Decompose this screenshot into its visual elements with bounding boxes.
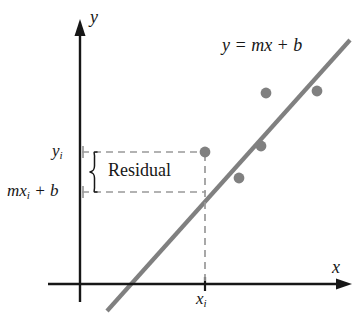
y-observed-label-base: y	[52, 141, 60, 160]
x-axis-label: x	[332, 258, 340, 276]
residual-diagram: y x y = mx + b yi mxi + b xi Residual	[0, 0, 355, 316]
fitted-value-label: mxi + b	[7, 182, 58, 199]
y-axis-label: y	[90, 8, 98, 26]
y-axis-arrowhead	[75, 19, 86, 36]
x-observed-label: xi	[196, 290, 207, 307]
residual-brace	[90, 152, 97, 192]
data-point	[261, 88, 272, 99]
data-point-observed	[200, 147, 211, 158]
data-point	[234, 173, 245, 184]
residual-label: Residual	[108, 161, 171, 179]
data-point	[256, 141, 267, 152]
data-point	[312, 86, 323, 97]
x-observed-label-subscript: i	[204, 297, 207, 309]
fitted-value-label-tail: + b	[30, 181, 58, 200]
x-axis-arrowhead	[336, 279, 352, 290]
x-observed-label-base: x	[196, 289, 204, 308]
fitted-value-label-base: mx	[7, 181, 27, 200]
y-observed-label-subscript: i	[60, 149, 63, 161]
regression-equation-label: y = mx + b	[222, 36, 302, 54]
y-observed-label: yi	[52, 142, 63, 159]
fitted-value-label-subscript: i	[27, 189, 30, 201]
